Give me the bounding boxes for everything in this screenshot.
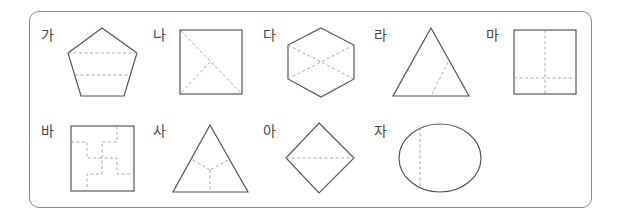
shape-ma-square bbox=[514, 30, 576, 94]
shape-sa-triangle bbox=[173, 125, 248, 192]
shape-ga-pentagon bbox=[68, 28, 137, 96]
shape-ra-triangle bbox=[393, 28, 469, 96]
shape-ja-ellipse bbox=[399, 124, 481, 192]
shape-na-square bbox=[180, 30, 242, 94]
shape-da-hexagon bbox=[288, 28, 354, 97]
shapes-canvas bbox=[0, 0, 622, 219]
shape-a-diamond bbox=[286, 123, 354, 193]
shape-ba-square bbox=[71, 126, 134, 191]
